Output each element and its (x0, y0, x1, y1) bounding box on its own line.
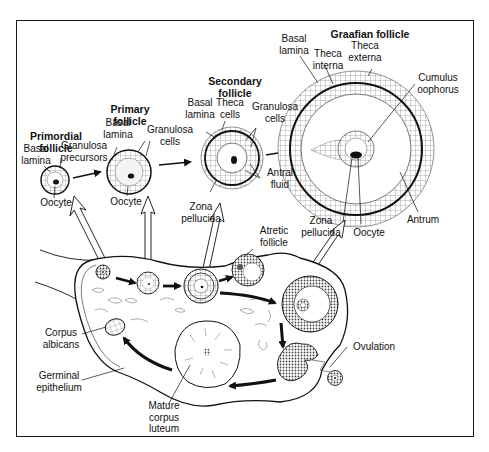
label-theca-externa: Theca externa (342, 40, 388, 63)
graafian-follicle (278, 71, 434, 227)
arrow-primary-to-secondary (159, 162, 190, 165)
label-graafian-oocyte: Oocyte (346, 227, 392, 239)
ovulated-oocyte (328, 371, 343, 386)
label-antrum: Antrum (400, 214, 446, 226)
ovary-primary-follicle (137, 272, 159, 294)
label-atretic-follicle: Atretic follicle (252, 225, 296, 248)
arrow-primordial-to-primary (73, 172, 100, 178)
label-germinal-epithelium: Germinal epithelium (30, 370, 88, 393)
label-granulosa-precursors: Granulosa precursors (56, 140, 112, 163)
ovary-secondary-follicle (184, 269, 218, 303)
corpus-luteum (175, 321, 240, 388)
arrow-graafian-to-ruptured (281, 323, 283, 347)
label-secondary-theca-cells: Theca cells (212, 97, 248, 120)
title-graafian-follicle: Graafian follicle (310, 28, 430, 40)
ovary-primordial-follicle (96, 265, 110, 279)
label-ovulation: Ovulation (346, 341, 402, 353)
label-primary-basal-lamina: Basal lamina (98, 117, 138, 140)
title-secondary-follicle: Secondary follicle (195, 75, 275, 99)
label-primary-oocyte: Oocyte (102, 196, 150, 208)
label-primordial-basal-lamina: Basal lamina (16, 143, 56, 166)
label-cumulus-oophorus: Cumulus oophorus (412, 72, 464, 95)
label-corpus-albicans: Corpus albicans (36, 327, 86, 350)
label-antral-fluid: Antral fluid (262, 167, 298, 190)
label-primary-granulosa-cells: Granulosa cells (142, 124, 198, 147)
ovary-atretic-follicle (232, 254, 264, 286)
label-graafian-zona-pellucida: Zona pellucida (296, 215, 346, 238)
label-secondary-zona-pellucida: Zona pellucida (176, 201, 226, 224)
label-secondary-granulosa-cells: Granulosa cells (247, 101, 303, 124)
ovary-graafian-follicle (282, 276, 338, 332)
label-primordial-oocyte: Oocyte (32, 197, 80, 209)
label-mature-corpus-luteum: Mature corpus luteum (140, 400, 188, 435)
